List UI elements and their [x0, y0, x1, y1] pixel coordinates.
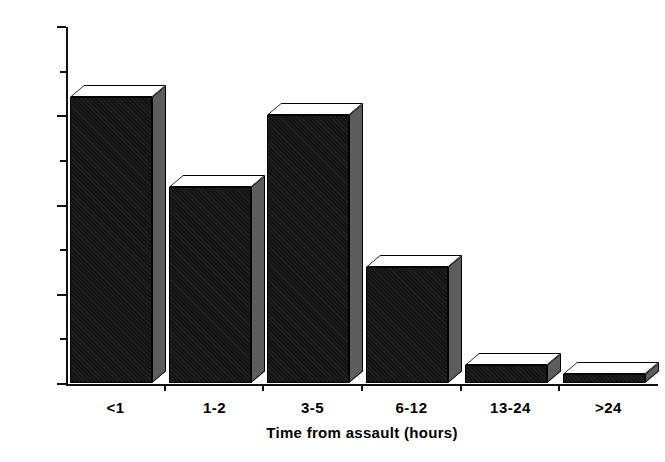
x-category-label: 13-24 [461, 399, 560, 416]
bar [465, 353, 547, 383]
x-tick [361, 384, 363, 391]
bar-front-face [169, 187, 251, 383]
bar-top-face [267, 103, 363, 115]
bar [169, 175, 251, 383]
y-tick-minor [60, 71, 66, 73]
x-category-label: >24 [559, 399, 658, 416]
y-tick-major [57, 205, 66, 207]
bar-side-face [152, 86, 166, 383]
x-tick [262, 384, 264, 391]
bar-front-face [267, 115, 349, 383]
y-tick-major [57, 383, 66, 385]
y-tick-minor [60, 249, 66, 251]
x-category-label: 6-12 [362, 399, 461, 416]
y-tick-major [57, 26, 66, 28]
x-category-label: 3-5 [263, 399, 362, 416]
x-tick [558, 384, 560, 391]
y-tick-minor [60, 160, 66, 162]
bar-front-face [563, 374, 645, 383]
bar-front-face [70, 97, 152, 383]
y-axis-line [66, 27, 68, 386]
x-tick [164, 384, 166, 391]
bar-top-face [169, 175, 265, 187]
bar-chart-figure: % Total 010203040 <11-23-56-1213-24>24 T… [0, 0, 665, 462]
bar-front-face [465, 365, 547, 383]
y-tick-major [57, 294, 66, 296]
bar [267, 103, 349, 383]
x-axis-title: Time from assault (hours) [66, 424, 658, 441]
plot-area: <11-23-56-1213-24>24 [66, 27, 658, 385]
bar-top-face [70, 85, 166, 97]
x-tick [460, 384, 462, 391]
bar-front-face [366, 267, 448, 383]
bar-side-face [448, 255, 462, 383]
bar-top-face [563, 362, 659, 374]
x-category-label: 1-2 [165, 399, 264, 416]
bar-side-face [349, 104, 363, 383]
bar-top-face [366, 255, 462, 267]
x-category-label: <1 [66, 399, 165, 416]
y-tick-major [57, 115, 66, 117]
bar [70, 85, 152, 383]
bar-side-face [251, 175, 265, 383]
bar [366, 255, 448, 383]
bar [563, 362, 645, 383]
y-tick-minor [60, 338, 66, 340]
bar-top-face [465, 353, 561, 365]
